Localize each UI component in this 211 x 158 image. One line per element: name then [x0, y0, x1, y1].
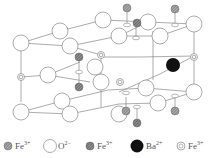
legend: Fe3+ O2− Fe3+ Ba2+ Fe3+ [0, 136, 211, 156]
ba-solid-icon [131, 140, 144, 153]
o-ion [111, 28, 127, 44]
o-ion [152, 28, 168, 44]
o-ion [95, 12, 111, 28]
crystal-structure-diagram [0, 0, 211, 132]
o-ion [13, 104, 29, 120]
fe-hatched-dark-icon [86, 142, 94, 150]
ba-ion [166, 58, 180, 72]
o-ion [62, 106, 78, 122]
svg-text:Fe3+: Fe3+ [15, 140, 31, 151]
svg-text:Fe3+: Fe3+ [97, 140, 113, 151]
legend-item-fe-light: Fe3+ [4, 140, 31, 151]
fe-hatched-light-icon [4, 142, 12, 150]
legend-item-fe-dark: Fe3+ [86, 140, 113, 151]
svg-text:Fe3+: Fe3+ [188, 140, 204, 151]
o-ion [140, 14, 156, 30]
o-ion [62, 38, 78, 54]
o-ion [40, 67, 56, 83]
o-ion [150, 95, 166, 111]
legend-item-ba: Ba2+ [131, 140, 164, 153]
legend-item-fe-ring: Fe3+ [177, 140, 204, 151]
o-ion [186, 84, 202, 100]
o-ion [186, 16, 202, 32]
o-ion [52, 23, 68, 39]
fe-ring-icon [177, 142, 185, 150]
o-ion [138, 80, 154, 96]
o-open-circle-icon [44, 140, 57, 153]
o-ion [87, 59, 103, 75]
o-ion [13, 35, 29, 51]
o-ion [93, 74, 109, 90]
legend-item-o: O2− [44, 140, 72, 153]
svg-text:O2−: O2− [58, 140, 72, 151]
svg-text:Ba2+: Ba2+ [146, 140, 163, 151]
